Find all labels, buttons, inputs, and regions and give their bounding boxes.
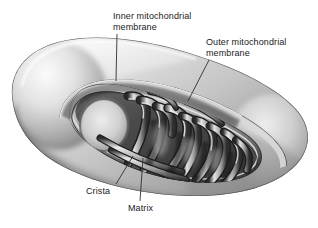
mitochondrion-figure: Inner mitochondrialmembrane Outer mitoch… [0,0,318,228]
label-crista: Crista [86,186,110,197]
label-line-1: Inner mitochondrial [113,11,191,21]
label-line-1: Outer mitochondrial [206,37,286,47]
mitochondrion-illustration [0,0,318,228]
label-matrix: Matrix [128,203,153,214]
label-line-2: membrane [113,22,157,32]
label-outer-mitochondrial-membrane: Outer mitochondrialmembrane [206,37,286,59]
label-line-2: membrane [206,48,250,58]
label-inner-mitochondrial-membrane: Inner mitochondrialmembrane [113,11,191,33]
